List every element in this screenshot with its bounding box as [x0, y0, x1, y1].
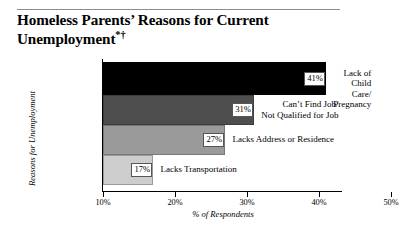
bar-category-label: Lacks Address or Residence [232, 134, 334, 145]
plot-area: 41%Lack of Child Care/Pregnancy31%Can’t … [103, 59, 355, 191]
bar-value-label: 31% [232, 103, 253, 117]
title-footnote-marker: *† [115, 29, 125, 40]
x-axis-line [102, 191, 342, 192]
x-tick-label: 20% [155, 198, 195, 207]
bar-category-line: Lacks Transportation [160, 164, 236, 174]
x-axis-title: % of Respondents [103, 209, 343, 219]
x-tick-30 [247, 192, 248, 197]
bar-category-line: Not Qualified for Job [261, 110, 338, 120]
page-title: Homeless Parents’ Reasons for Current Un… [17, 11, 347, 49]
bar-category-label: Can’t Find Job/Not Qualified for Job [261, 99, 338, 120]
bar-category-line: Pregnancy [333, 99, 371, 109]
x-tick-label: 50% [371, 198, 403, 207]
x-tick-40 [319, 192, 320, 197]
x-tick-20 [175, 192, 176, 197]
bar-value-label: 41% [304, 72, 325, 86]
x-tick-label: 30% [227, 198, 267, 207]
x-tick-label: 40% [299, 198, 339, 207]
bar-value-label: 17% [131, 163, 152, 177]
bar-value-label: 27% [203, 133, 224, 147]
title-line-2: Unemployment [17, 30, 115, 47]
y-axis-title: Reasons for Unemployment [27, 91, 37, 186]
bar [103, 62, 326, 95]
x-tick-10 [103, 192, 104, 197]
bar-category-label: Lack of Child Care/Pregnancy [333, 68, 371, 110]
bar-category-line: Can’t Find Job/ [283, 99, 339, 109]
title-divider [17, 9, 340, 10]
bar-category-line: Lack of Child Care/ [343, 68, 371, 99]
bar-category-label: Lacks Transportation [160, 164, 236, 175]
title-line-1: Homeless Parents’ Reasons for Current [17, 11, 269, 28]
bar-category-line: Lacks Address or Residence [232, 134, 334, 144]
x-tick-label: 10% [83, 198, 123, 207]
x-tick-50 [391, 192, 392, 197]
